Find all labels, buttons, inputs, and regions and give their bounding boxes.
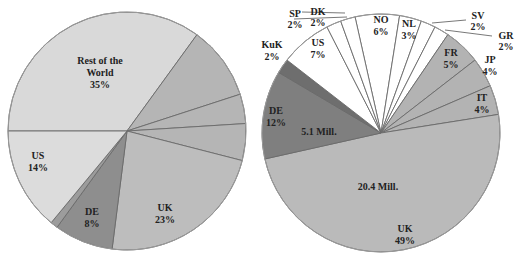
label-right-no: NO xyxy=(374,14,389,25)
label-right-us-pct: 7% xyxy=(311,49,326,60)
label-right-uk: UK xyxy=(398,223,413,234)
label-right-us: US xyxy=(312,37,325,48)
label-right-sv-pct: 2% xyxy=(471,21,486,32)
label-right-de-pct: 12% xyxy=(266,117,286,128)
label-rest-of-world-line1: Rest of the xyxy=(77,55,123,66)
pie-chart-left xyxy=(8,12,246,250)
label-right-nl: NL xyxy=(402,18,416,29)
label-right-jp: JP xyxy=(484,54,495,65)
label-right-sp-pct: 2% xyxy=(288,19,303,30)
label-right-gr: GR xyxy=(499,30,515,41)
label-right-sp: SP xyxy=(289,8,301,19)
label-left-us: US xyxy=(32,150,45,161)
label-right-fr-pct: 5% xyxy=(444,59,459,70)
label-left-de: DE xyxy=(85,206,99,217)
label-left-uk-pct: 23% xyxy=(155,214,175,225)
label-right-uk-mill: 20.4 Mill. xyxy=(358,181,399,192)
label-right-it: IT xyxy=(477,92,488,103)
label-right-de: DE xyxy=(269,105,283,116)
label-left-uk: UK xyxy=(158,202,173,213)
label-rest-of-world-pct: 35% xyxy=(90,79,110,90)
label-right-fr: FR xyxy=(444,47,458,58)
label-left-de-pct: 8% xyxy=(85,218,100,229)
label-right-kuk: KuK xyxy=(261,39,282,50)
label-right-uk-pct: 49% xyxy=(395,235,415,246)
label-left-us-pct: 14% xyxy=(28,162,48,173)
label-right-de-mill: 5.1 Mill. xyxy=(301,126,337,137)
label-right-it-pct: 4% xyxy=(475,104,490,115)
label-right-dk-pct: 2% xyxy=(311,17,326,28)
pie-chart-right xyxy=(262,14,500,252)
leader-line-sv xyxy=(432,20,466,23)
label-right-kuk-pct: 2% xyxy=(265,51,280,62)
label-right-nl-pct: 3% xyxy=(402,30,417,41)
label-right-no-pct: 6% xyxy=(374,26,389,37)
label-right-jp-pct: 4% xyxy=(483,66,498,77)
label-right-gr-pct: 2% xyxy=(499,41,514,52)
label-right-sv: SV xyxy=(472,10,486,21)
label-rest-of-world-line2: World xyxy=(86,67,114,78)
pie-charts: Rest of the World 35% US 14% DE 8% UK 23… xyxy=(0,0,518,266)
label-right-dk: DK xyxy=(311,6,326,17)
